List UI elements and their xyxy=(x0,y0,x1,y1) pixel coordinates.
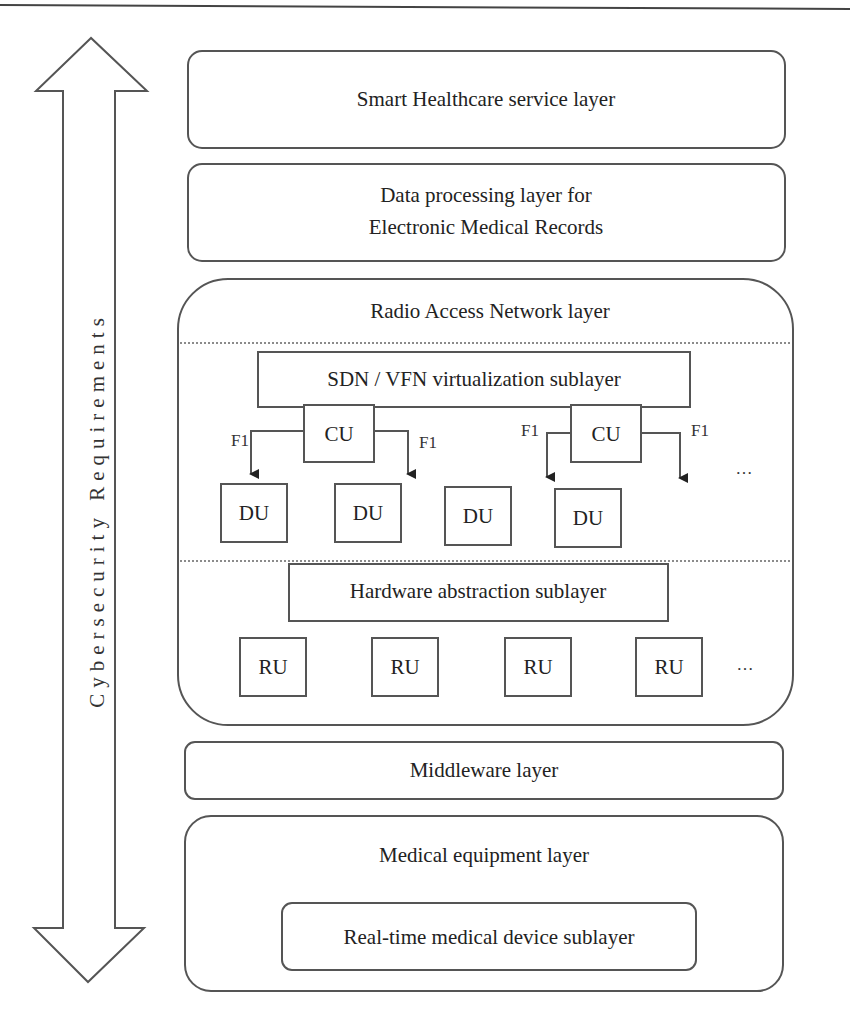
middleware-layer-label: Middleware layer xyxy=(410,758,559,782)
radio-access-network-layer: Radio Access Network layer SDN / VFN vir… xyxy=(178,279,793,725)
cu-label-1: CU xyxy=(324,422,353,446)
data-processing-label-line2: Electronic Medical Records xyxy=(369,215,603,239)
data-processing-label-line1: Data processing layer for xyxy=(380,183,592,207)
architecture-diagram: Cybersecurity Requirements Smart Healthc… xyxy=(0,0,850,1025)
cu-label-2: CU xyxy=(591,422,620,446)
f1-link-label: F1 xyxy=(419,433,437,452)
ran-layer-label: Radio Access Network layer xyxy=(370,299,610,323)
middleware-layer: Middleware layer xyxy=(185,742,783,799)
data-processing-layer: Data processing layer for Electronic Med… xyxy=(188,164,785,261)
cybersecurity-requirements-label: Cybersecurity Requirements xyxy=(85,312,109,708)
smart-healthcare-service-layer: Smart Healthcare service layer xyxy=(188,51,785,148)
ru-label: RU xyxy=(258,655,287,679)
du-label: DU xyxy=(239,501,269,525)
f1-link-label: F1 xyxy=(691,421,709,440)
du-label: DU xyxy=(463,504,493,528)
hardware-sublayer-label: Hardware abstraction sublayer xyxy=(350,579,607,603)
top-divider xyxy=(0,5,850,9)
medical-equipment-layer: Medical equipment layer Real-time medica… xyxy=(185,816,783,991)
service-layer-label: Smart Healthcare service layer xyxy=(357,87,615,111)
f1-link-label: F1 xyxy=(521,421,539,440)
ru-ellipsis: … xyxy=(737,655,754,674)
virtualization-sublayer-label: SDN / VFN virtualization sublayer xyxy=(327,367,621,391)
ru-label: RU xyxy=(523,655,552,679)
f1-link-label: F1 xyxy=(231,431,249,450)
ru-label: RU xyxy=(654,655,683,679)
real-time-sublayer-label: Real-time medical device sublayer xyxy=(344,925,635,949)
medical-equipment-layer-label: Medical equipment layer xyxy=(379,843,589,867)
du-label: DU xyxy=(353,501,383,525)
du-ellipsis: … xyxy=(736,459,753,478)
du-label: DU xyxy=(573,506,603,530)
ru-label: RU xyxy=(390,655,419,679)
